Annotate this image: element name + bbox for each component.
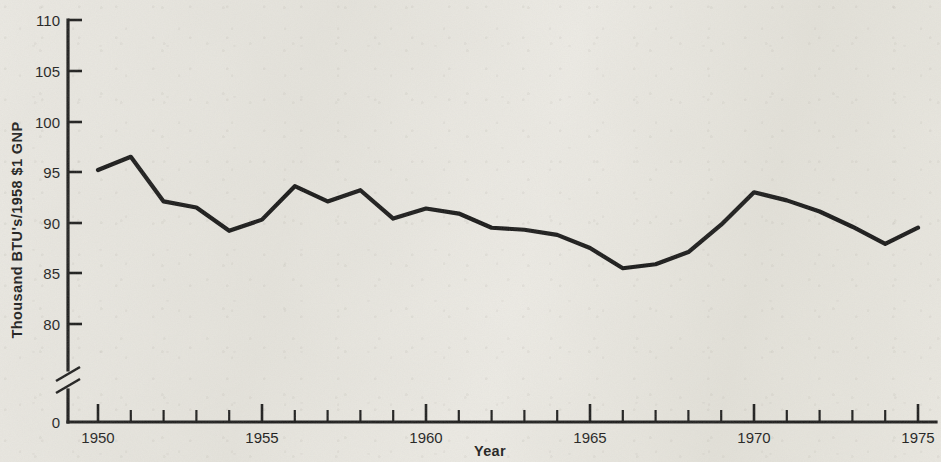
y-tick-label-zero: 0 xyxy=(52,414,60,431)
x-axis-major-ticks xyxy=(98,404,918,422)
y-tick-label: 105 xyxy=(35,63,60,80)
y-tick-label: 110 xyxy=(36,12,60,29)
x-axis-minor-ticks xyxy=(131,410,885,422)
y-tick-label: 80 xyxy=(43,316,60,333)
data-series-line xyxy=(98,157,918,268)
y-tick-label: 85 xyxy=(43,265,60,282)
x-tick-label: 1975 xyxy=(901,429,934,446)
x-tick-label: 1955 xyxy=(245,429,278,446)
y-tick-label: 100 xyxy=(35,114,60,131)
x-axis-label: Year xyxy=(474,443,506,459)
y-tick-label: 95 xyxy=(43,164,60,181)
x-tick-label: 1970 xyxy=(737,429,770,446)
x-axis-tick-labels: 195019551960196519701975 xyxy=(81,429,934,446)
y-tick-label: 90 xyxy=(43,215,60,232)
y-axis-ticks xyxy=(68,20,82,324)
y-axis-label: Thousand BTU's/1958 $1 GNP xyxy=(9,122,25,339)
y-axis-tick-labels: 110 105 100 95 90 85 80 0 xyxy=(35,12,60,431)
x-tick-label: 1950 xyxy=(81,429,114,446)
chart-page: Thousand BTU's/1958 $1 GNP Year 110 105 … xyxy=(0,0,941,462)
x-tick-label: 1965 xyxy=(573,429,606,446)
x-tick-label: 1960 xyxy=(409,429,442,446)
energy-intensity-line-chart: Thousand BTU's/1958 $1 GNP Year 110 105 … xyxy=(0,0,941,462)
